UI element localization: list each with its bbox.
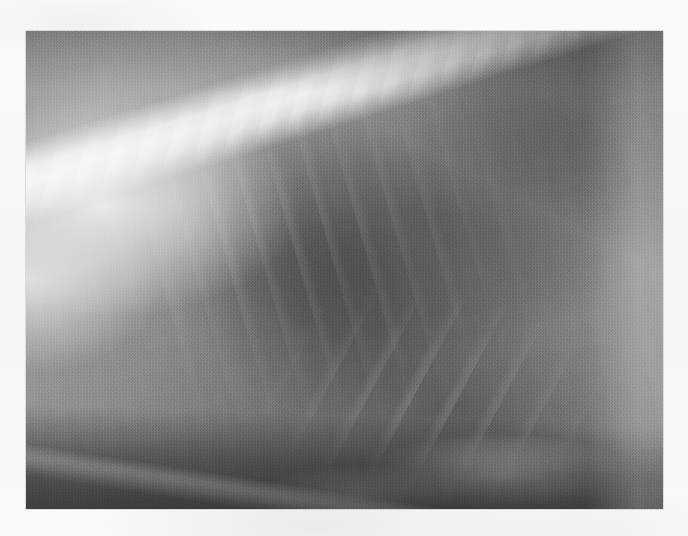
plate-vignette: [26, 31, 663, 509]
page-canvas: Lateral thoracic radiograph showing vert…: [0, 0, 688, 536]
lateral-thoracic-radiograph[interactable]: Lateral thoracic radiograph showing vert…: [26, 31, 663, 509]
